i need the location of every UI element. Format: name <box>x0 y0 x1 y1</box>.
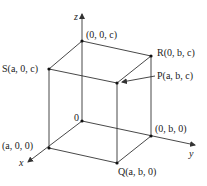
point-xa <box>47 146 50 149</box>
p-leader-line <box>122 76 155 82</box>
label-S: S(a, 0, c) <box>2 63 38 75</box>
label-P: P(a, b, c) <box>157 70 193 82</box>
point-R <box>149 54 152 57</box>
edge-xa-Q <box>49 148 117 163</box>
label-xa: (a, 0, 0) <box>2 140 33 152</box>
point-Q <box>115 161 118 164</box>
point-origin <box>80 119 83 122</box>
edge-R-P <box>117 56 151 83</box>
point-P <box>115 81 118 84</box>
edge-S-P <box>49 69 117 83</box>
label-Q: Q(a, b, 0) <box>118 166 156 178</box>
point-S <box>47 67 50 70</box>
label-origin: 0 <box>74 112 79 123</box>
point-yb <box>149 134 152 137</box>
x-axis <box>28 121 82 162</box>
box-diagram: z x y 0 (0, 0, c) R(0, b, c) S(a, 0, c) … <box>0 0 207 186</box>
label-zc: (0, 0, c) <box>86 29 117 41</box>
edge-zc-S <box>49 41 82 69</box>
x-axis-label: x <box>18 157 24 168</box>
edge-yb-Q <box>117 136 151 163</box>
label-yb: (0, b, 0) <box>155 123 187 135</box>
y-axis-label: y <box>188 148 194 159</box>
point-zc <box>80 39 83 42</box>
label-R: R(0, b, c) <box>157 47 195 59</box>
z-axis-label: z <box>73 11 78 22</box>
edge-zc-R <box>82 41 151 56</box>
